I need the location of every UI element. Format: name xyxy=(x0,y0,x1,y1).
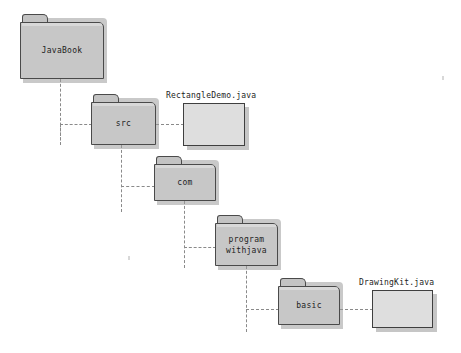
folder-body: JavaBook xyxy=(20,22,104,79)
file-label-drawingkit: DrawingKit.java xyxy=(359,278,434,288)
folder-com[interactable]: com xyxy=(154,156,216,201)
file-box-icon xyxy=(372,290,433,328)
folder-body: program withjava xyxy=(215,223,278,266)
folder-body: com xyxy=(154,164,216,201)
scan-artifact-speck-right xyxy=(442,76,444,80)
folder-label: program withjava xyxy=(226,234,267,256)
folder-label: JavaBook xyxy=(42,45,83,56)
folder-body: src xyxy=(91,102,156,145)
file-box-icon xyxy=(183,103,245,146)
folder-label: src xyxy=(116,118,131,129)
folder-programwithjava[interactable]: program withjava xyxy=(215,215,278,266)
connector-src-to-com xyxy=(121,186,155,187)
folder-body: basic xyxy=(278,286,340,325)
connector-src-to-file xyxy=(156,124,184,125)
connector-program-to-basic xyxy=(246,309,279,310)
folder-basic[interactable]: basic xyxy=(278,278,340,325)
file-rectangledemo[interactable] xyxy=(183,103,245,146)
scan-artifact-speck-middle xyxy=(128,256,130,260)
folder-javabook[interactable]: JavaBook xyxy=(20,14,104,79)
folder-src[interactable]: src xyxy=(91,94,156,145)
file-drawingkit[interactable] xyxy=(372,290,433,328)
folder-hierarchy-diagram: JavaBooksrccomprogram withjavabasicRecta… xyxy=(0,0,461,353)
connector-basic-to-file xyxy=(340,309,373,310)
connector-program-stem xyxy=(246,266,247,332)
folder-label: com xyxy=(177,177,192,188)
file-label-rectangledemo: RectangleDemo.java xyxy=(166,91,256,101)
connector-src-stem xyxy=(121,145,122,212)
connector-javabook-stem-tail xyxy=(60,124,61,145)
connector-com-stem xyxy=(184,201,185,268)
connector-javabook-to-src xyxy=(60,124,92,125)
connector-com-to-program xyxy=(184,247,216,248)
folder-label: basic xyxy=(296,300,322,311)
